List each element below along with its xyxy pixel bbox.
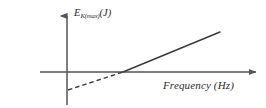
x-axis-label: Frequency (Hz): [163, 80, 234, 91]
data-line-dashed-extrapolation: [68, 72, 123, 90]
y-axis-unit: (J): [100, 7, 112, 18]
y-axis-subscript: K(max): [80, 12, 99, 19]
plot-canvas: [0, 0, 266, 108]
axes-group: [40, 16, 256, 105]
y-axis-label: EK(max)(J): [74, 8, 111, 19]
data-line-solid: [123, 32, 220, 72]
photoelectric-effect-figure: EK(max)(J) Frequency (Hz): [0, 0, 266, 108]
